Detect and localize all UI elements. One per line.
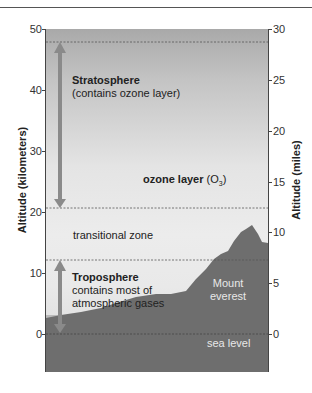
tickmark	[42, 90, 45, 91]
troposphere-label: Troposphere contains most of atmospheric…	[72, 271, 164, 310]
troposphere-description-2: atmospheric gases	[72, 297, 164, 309]
left-tick-10: 10	[12, 268, 42, 279]
left-tick-40: 40	[12, 85, 42, 96]
tickmark	[42, 334, 45, 335]
right-tick-0: 0	[273, 329, 279, 340]
stratosphere-name: Stratosphere	[72, 74, 140, 86]
stratosphere-description: (contains ozone layer)	[72, 87, 180, 99]
left-tick-0: 0	[12, 329, 42, 340]
mount-everest-label: Mount everest	[210, 277, 246, 303]
right-tick-30: 30	[273, 24, 285, 35]
stratosphere-arrow	[54, 42, 66, 208]
tickmark	[269, 283, 272, 284]
left-axis-line	[45, 29, 46, 372]
top-border	[0, 7, 312, 8]
tickmark	[269, 80, 272, 81]
tickmark	[42, 29, 45, 30]
tickmark	[42, 212, 45, 213]
ozone-layer-label: ozone layer (O3)	[143, 173, 226, 190]
tickmark	[269, 182, 272, 183]
stratosphere-label: Stratosphere (contains ozone layer)	[72, 74, 180, 100]
sea-level-label: sea level	[207, 337, 250, 350]
right-tick-5: 5	[273, 278, 279, 289]
tickmark	[42, 151, 45, 152]
right-tick-15: 15	[273, 177, 285, 188]
tickmark	[269, 334, 272, 335]
tickmark	[269, 131, 272, 132]
transitional-zone-label: transitional zone	[73, 229, 153, 242]
tickmark	[269, 29, 272, 30]
ozone-formula-open: (O	[207, 173, 219, 185]
right-tick-10: 10	[273, 227, 285, 238]
right-axis-label: Altitude (miles)	[290, 140, 302, 219]
troposphere-description-1: contains most of	[72, 284, 152, 296]
mount-everest-line1: Mount	[213, 277, 244, 289]
right-tick-25: 25	[273, 75, 285, 86]
ozone-layer-name: ozone layer	[143, 173, 204, 185]
tickmark	[269, 232, 272, 233]
troposphere-name: Troposphere	[72, 271, 139, 283]
left-axis-label: Altitude (kilometers)	[16, 127, 28, 233]
mount-everest-line2: everest	[210, 290, 246, 302]
ozone-formula-close: )	[223, 173, 227, 185]
right-tick-20: 20	[273, 126, 285, 137]
left-tick-50: 50	[12, 24, 42, 35]
tickmark	[42, 273, 45, 274]
